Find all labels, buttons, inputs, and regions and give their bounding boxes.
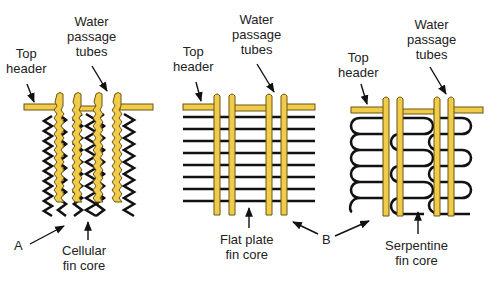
label-line: Flat plate [220,232,273,247]
flat-plate-fins [183,117,315,201]
label-line: passage [67,29,116,44]
core-label-b: Flat plate fin core [220,232,273,262]
label-line: header [338,65,378,80]
tubes-arrow-b [257,64,274,92]
label-line: Water [67,14,116,29]
label-line: tubes [67,44,116,59]
letter-a: A [14,238,23,253]
label-line: passage [232,27,281,42]
top-header-label-a: Top header [6,46,46,76]
label-line: fin core [385,253,448,268]
core-label-a: Cellular fin core [62,243,106,273]
core-label-c: Serpentine fin core [385,238,448,268]
tubes-label-b: Water passage tubes [232,12,281,57]
serpentine-fin-core-diagram [350,67,483,234]
label-line: Water [407,17,456,32]
top-header-arrow-c [361,84,367,104]
top-header-plate-left [183,104,215,110]
b-arrow-right [335,221,369,236]
top-header-arrow-b [196,82,201,101]
top-header-plate-mid [232,105,268,111]
label-line: fin core [62,258,106,273]
tubes-arrow-a [92,66,107,91]
top-header-plate-left [351,107,386,113]
label-line: Top [173,44,213,59]
top-header-arrow-a [27,84,34,102]
water-passage-tubes [214,94,287,215]
top-header-plate-mid [400,109,434,114]
top-header-plate-right [450,107,483,113]
top-header-plate-right [120,104,153,110]
label-line: Water [232,12,281,27]
b-arrow-left [293,222,318,234]
cellular-fin-core-diagram [24,66,153,244]
label-line: header [173,59,213,74]
label-line: Top [6,46,46,61]
label-line: Cellular [62,243,106,258]
label-line: tubes [232,42,281,57]
label-line: Top [338,50,378,65]
label-line: passage [407,32,456,47]
flat-plate-fin-core-diagram [183,64,369,236]
label-line: header [6,61,46,76]
a-arrow [30,226,64,244]
tubes-label-c: Water passage tubes [407,17,456,62]
letter-b: B [322,232,331,247]
tubes-label-a: Water passage tubes [67,14,116,59]
top-header-label-b: Top header [173,44,213,74]
label-line: tubes [407,47,456,62]
tubes-arrow-c [430,67,446,94]
label-line: Serpentine [385,238,448,253]
top-header-label-c: Top header [338,50,378,80]
label-line: fin core [220,247,273,262]
